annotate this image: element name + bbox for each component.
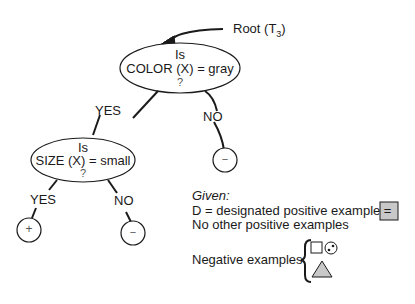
- negative-example-dotted-circle: [325, 242, 337, 254]
- root-node-line3: ?: [120, 75, 240, 90]
- root-no-label: NO: [203, 109, 223, 124]
- size-yes-edge-lower: [32, 208, 36, 218]
- root-no-edge-upper: [205, 91, 217, 111]
- given-line2: No other positive examples: [192, 217, 349, 232]
- negative-example-gray-triangle: [312, 261, 332, 277]
- dot-icon: [332, 245, 335, 248]
- size-yes-edge-upper: [49, 180, 57, 190]
- negative-example-white-square: [311, 242, 322, 253]
- root-no-edge-lower: [214, 122, 224, 150]
- size-no-label: NO: [114, 193, 134, 208]
- size-no-edge-upper: [108, 180, 117, 193]
- root-label-text: Root (T: [233, 21, 276, 36]
- negative-examples-label: Negative examples: [192, 252, 303, 267]
- size-yes-leaf-sign: +: [17, 222, 41, 237]
- root-node-line1: Is: [120, 47, 240, 62]
- root-yes-edge-lower: [93, 115, 100, 135]
- root-node-line2: COLOR (X) = gray: [120, 61, 240, 76]
- given-line1: D = designated positive example =: [192, 203, 391, 218]
- root-label: Root (T3): [233, 21, 286, 42]
- root-label-close: ): [281, 21, 285, 36]
- root-no-leaf-sign: −: [213, 152, 237, 167]
- size-no-edge-lower: [126, 212, 131, 222]
- dot-icon: [328, 249, 331, 252]
- root-yes-edge: [133, 91, 158, 118]
- root-yes-label: YES: [95, 103, 121, 118]
- given-heading: Given:: [192, 188, 230, 203]
- size-yes-label: YES: [30, 192, 56, 207]
- size-no-leaf-sign: −: [121, 225, 145, 240]
- size-node-line3: ?: [31, 166, 135, 181]
